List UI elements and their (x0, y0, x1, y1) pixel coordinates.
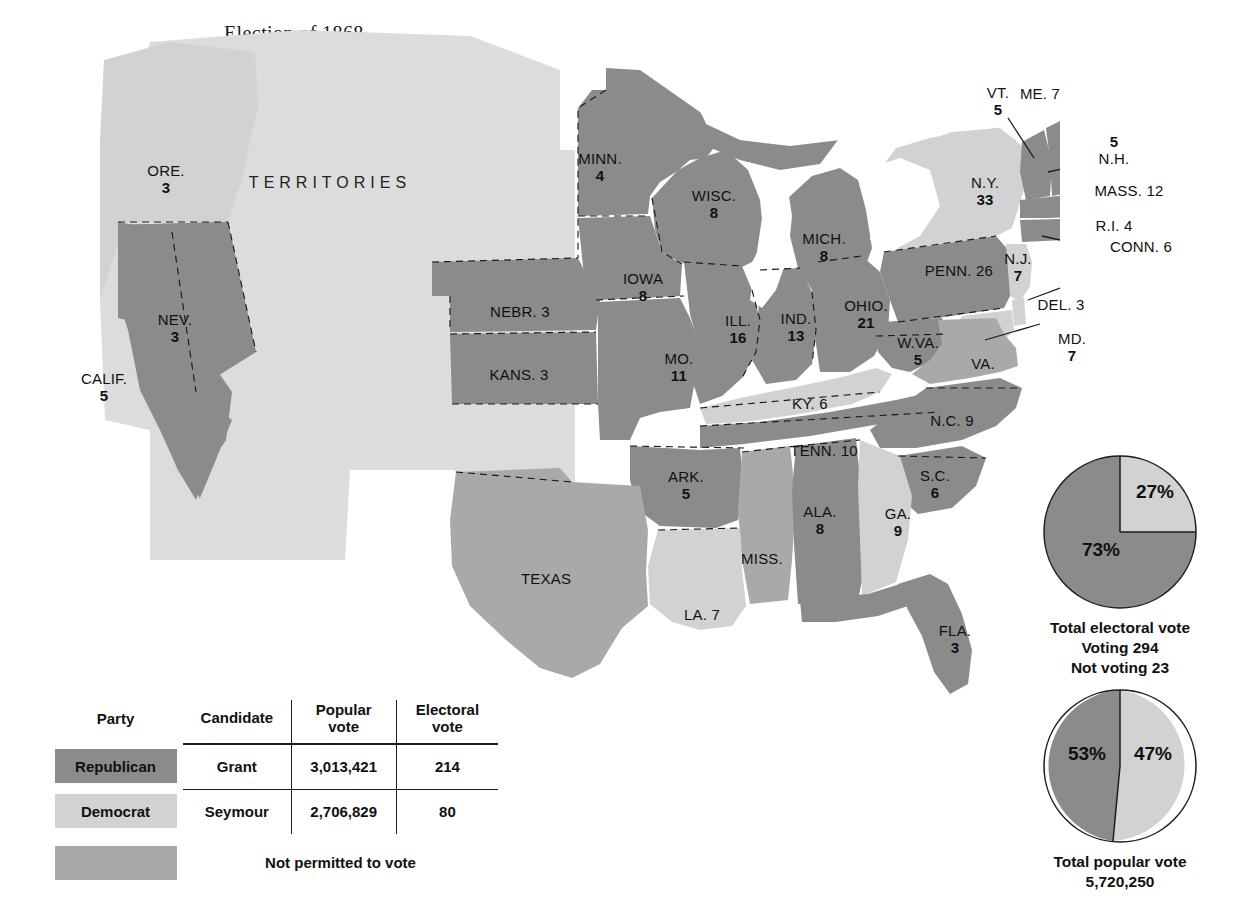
label-connecticut: CONN. 6 (1110, 239, 1172, 256)
label-westvirginia: W.VA.5 (897, 335, 939, 369)
label-iowa: IOWA8 (623, 271, 663, 305)
caption-line-2: Voting 294 (1035, 638, 1205, 658)
label-massachusetts: MASS. 12 (1094, 183, 1163, 200)
results-legend: Party Candidate Popular vote Electoral v… (48, 700, 498, 892)
cell-popular-seymour: 2,706,829 (291, 789, 396, 834)
label-virginia: VA. (971, 356, 995, 373)
election-map-figure: Election of 1868. (0, 0, 1240, 914)
label-arkansas: ARK.5 (668, 469, 704, 503)
label-maryland: MD.7 (1058, 331, 1086, 365)
label-oregon: ORE.3 (147, 163, 184, 197)
party-label-republican: Republican (75, 758, 156, 775)
label-indiana: IND.13 (781, 311, 812, 345)
header-electoral-line2: vote (407, 719, 488, 736)
header-electoral-line1: Electoral (407, 702, 488, 719)
pie-slice-republican (1048, 690, 1120, 841)
label-mississippi: MISS. (741, 551, 783, 568)
swatch-republican: Republican (55, 749, 177, 783)
electoral-vote-pie-block: 27% 73% Total electoral vote Voting 294 … (1035, 452, 1205, 677)
results-table: Party Candidate Popular vote Electoral v… (48, 700, 498, 892)
popular-pie-caption: Total popular vote 5,720,250 (1035, 852, 1205, 892)
cell-electoral-grant: 214 (396, 744, 498, 790)
label-minnesota: MINN.4 (578, 151, 622, 185)
electoral-vote-pie: 27% 73% (1035, 452, 1205, 612)
pie-pct-republican: 53% (1068, 743, 1106, 764)
header-party: Party (48, 700, 183, 744)
label-illinois: ILL.16 (725, 313, 751, 347)
header-popular-line1: Popular (302, 702, 386, 719)
header-electoral-vote: Electoral vote (396, 700, 498, 744)
legend-note-text: Not permitted to vote (183, 834, 498, 892)
caption-line-3: Not voting 23 (1035, 658, 1205, 678)
label-delaware: DEL. 3 (1037, 297, 1084, 314)
label-kansas: KANS. 3 (490, 367, 549, 384)
label-louisiana: LA. 7 (684, 607, 720, 624)
label-nebraska: NEBR. 3 (490, 304, 550, 321)
cell-candidate-grant: Grant (183, 744, 291, 790)
caption-line-2: 5,720,250 (1035, 872, 1205, 892)
label-kentucky: KY. 6 (792, 396, 828, 413)
party-label-democrat: Democrat (81, 803, 150, 820)
us-election-map: TERRITORIES ORE.3 NEV.3 CALIF.5 MINN.4 W… (0, 0, 1060, 720)
pie-pct-democrat: 47% (1134, 743, 1172, 764)
label-nevada: NEV.3 (158, 312, 192, 346)
label-newhampshire: 5N.H. (1099, 134, 1130, 168)
label-pennsylvania: PENN. 26 (925, 263, 993, 280)
cell-popular-grant: 3,013,421 (291, 744, 396, 790)
legend-note-row: Not permitted to vote (48, 834, 498, 892)
label-maine: ME. 7 (1020, 86, 1060, 103)
label-georgia: GA.9 (885, 506, 911, 540)
state-nebraska (432, 258, 600, 332)
label-alabama: ALA.8 (803, 504, 836, 538)
caption-line-1: Total popular vote (1035, 852, 1205, 872)
cell-candidate-seymour: Seymour (183, 789, 291, 834)
cell-electoral-seymour: 80 (396, 789, 498, 834)
table-row: Democrat Seymour 2,706,829 80 (48, 789, 498, 834)
label-southcarolina: S.C.6 (920, 468, 950, 502)
label-newjersey: N.J.7 (1004, 251, 1031, 285)
label-michigan: MICH.8 (802, 231, 846, 265)
header-popular-line2: vote (302, 719, 386, 736)
label-missouri: MO.11 (665, 351, 694, 385)
label-territories: TERRITORIES (249, 174, 411, 192)
label-california: CALIF.5 (81, 371, 127, 405)
label-florida: FLA.3 (939, 623, 971, 657)
label-texas: TEXAS (521, 571, 571, 588)
label-northcarolina: N.C. 9 (930, 413, 974, 430)
swatch-not-permitted (55, 846, 177, 880)
table-header-row: Party Candidate Popular vote Electoral v… (48, 700, 498, 744)
label-wisconsin: WISC.8 (692, 188, 736, 222)
label-tennessee: TENN. 10 (790, 443, 857, 460)
header-popular-vote: Popular vote (291, 700, 396, 744)
label-rhodeisland: R.I. 4 (1095, 218, 1132, 235)
popular-vote-pie-block: 53% 47% Total popular vote 5,720,250 (1035, 686, 1205, 892)
header-candidate: Candidate (183, 700, 291, 744)
cell-swatch-not-permitted (48, 834, 183, 892)
electoral-pie-caption: Total electoral vote Voting 294 Not voti… (1035, 618, 1205, 677)
caption-line-1: Total electoral vote (1035, 618, 1205, 638)
table-row: Republican Grant 3,013,421 214 (48, 744, 498, 790)
pie-pct-republican: 73% (1082, 539, 1120, 560)
pie-pct-democrat: 27% (1136, 481, 1174, 502)
label-newyork: N.Y.33 (971, 175, 999, 209)
label-vermont: VT.5 (987, 85, 1009, 119)
swatch-democrat: Democrat (55, 794, 177, 828)
state-mississippi (738, 446, 796, 604)
cell-party-republican: Republican (48, 744, 183, 790)
cell-party-democrat: Democrat (48, 789, 183, 834)
popular-vote-pie: 53% 47% (1035, 686, 1205, 846)
state-vermont (1020, 130, 1052, 200)
state-delaware (1012, 298, 1026, 326)
label-ohio: OHIO.21 (844, 298, 888, 332)
